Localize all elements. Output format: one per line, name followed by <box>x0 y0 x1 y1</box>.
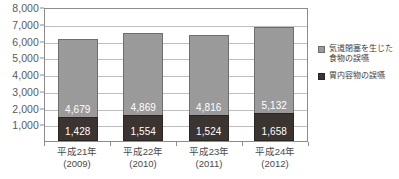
legend-label-top-line2: 食物の誤嚥 <box>329 54 369 63</box>
y-axis-tick-label: 4,000 <box>12 69 39 81</box>
bar-group: 4,8161,524 <box>189 9 229 141</box>
bar-segment-bottom: 1,524 <box>189 115 229 141</box>
bar-value-label-top: 4,816 <box>190 102 228 113</box>
x-axis-year-label: (2009) <box>46 158 108 170</box>
x-axis-era-label: 平成21年 <box>46 146 108 158</box>
x-axis-tick-mark <box>110 142 111 146</box>
chart-legend: 気道閉塞を生じた 食物の誤嚥 胃内容物の誤嚥 <box>318 44 398 88</box>
x-axis-year-label: (2012) <box>244 158 306 170</box>
x-axis-era-label: 平成22年 <box>112 146 174 158</box>
bar-group: 5,1321,658 <box>254 9 294 141</box>
legend-label-top-line1: 気道閉塞を生じた <box>329 44 393 53</box>
bar-segment-bottom: 1,658 <box>254 113 294 141</box>
x-axis-era-label: 平成24年 <box>244 146 306 158</box>
y-axis-tick-label: 5,000 <box>12 52 39 64</box>
bar-segment-top: 4,816 <box>189 35 229 116</box>
y-axis-tick-label: 6,000 <box>12 36 39 48</box>
y-axis: 1,0002,0003,0004,0005,0006,0007,0008,000 <box>0 8 44 133</box>
legend-item-airway-obstruction-food-aspiration: 気道閉塞を生じた 食物の誤嚥 <box>318 44 398 64</box>
legend-label-bottom: 胃内容物の誤嚥 <box>329 71 385 81</box>
x-axis-year-label: (2011) <box>178 158 240 170</box>
y-axis-tick-label: 2,000 <box>12 103 39 115</box>
x-axis-tick-mark <box>242 142 243 146</box>
legend-swatch-icon-bottom <box>318 73 325 80</box>
bar-value-label-top: 4,869 <box>124 102 162 113</box>
bar-group: 4,6791,428 <box>58 9 98 141</box>
bar-value-label-bottom: 1,524 <box>190 126 228 137</box>
x-axis-category-label: 平成24年(2012) <box>244 146 306 170</box>
bar-segment-bottom: 1,554 <box>123 115 163 141</box>
x-axis-tick-mark <box>308 142 309 146</box>
bar-value-label-bottom: 1,428 <box>59 126 97 137</box>
bar-value-label-top: 5,132 <box>255 100 293 111</box>
x-axis-era-label: 平成23年 <box>178 146 240 158</box>
y-axis-tick-label: 3,000 <box>12 86 39 98</box>
bar-value-label-bottom: 1,554 <box>124 126 162 137</box>
x-axis: 平成21年(2009)平成22年(2010)平成23年(2011)平成24年(2… <box>44 146 308 170</box>
plot-area: 4,6791,4284,8691,5544,8161,5245,1321,658 <box>44 8 308 142</box>
legend-label-top: 気道閉塞を生じた 食物の誤嚥 <box>329 44 393 64</box>
legend-label-bottom-line1: 胃内容物の誤嚥 <box>329 71 385 80</box>
x-axis-tick-mark <box>44 142 45 146</box>
bar-segment-top: 4,869 <box>123 33 163 115</box>
x-axis-category-label: 平成22年(2010) <box>112 146 174 170</box>
x-axis-tick-mark <box>176 142 177 146</box>
bar-group: 4,8691,554 <box>123 9 163 141</box>
bar-segment-top: 4,679 <box>58 39 98 117</box>
bar-value-label-bottom: 1,658 <box>255 126 293 137</box>
y-axis-tick-label: 1,000 <box>12 119 39 131</box>
x-axis-category-label: 平成23年(2011) <box>178 146 240 170</box>
bar-segment-top: 5,132 <box>254 27 294 113</box>
legend-swatch-icon-top <box>318 46 325 53</box>
x-axis-year-label: (2010) <box>112 158 174 170</box>
bar-segment-bottom: 1,428 <box>58 117 98 141</box>
stacked-bar-chart: 1,0002,0003,0004,0005,0006,0007,0008,000… <box>0 0 399 179</box>
bars-layer: 4,6791,4284,8691,5544,8161,5245,1321,658 <box>45 9 307 141</box>
y-axis-tick-label: 7,000 <box>12 19 39 31</box>
legend-item-gastric-contents-aspiration: 胃内容物の誤嚥 <box>318 71 398 81</box>
bar-value-label-top: 4,679 <box>59 104 97 115</box>
x-axis-category-label: 平成21年(2009) <box>46 146 108 170</box>
y-axis-tick-label: 8,000 <box>12 2 39 14</box>
